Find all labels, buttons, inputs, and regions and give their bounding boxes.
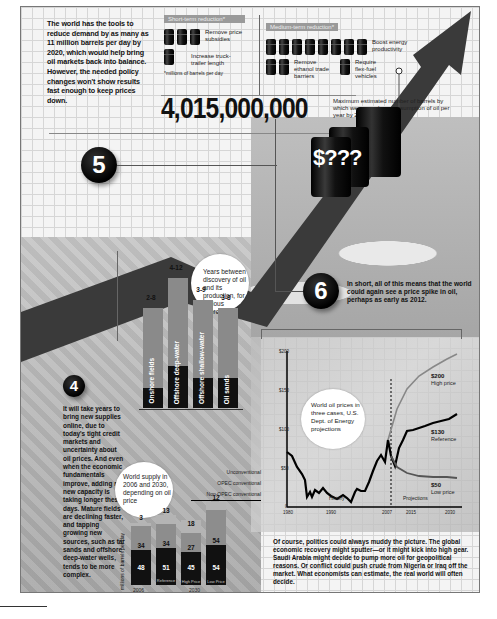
xtick: 1980 xyxy=(283,509,293,516)
value-label: 48 xyxy=(131,564,151,571)
ethanol-barriers-label: Remove ethanol trade barriers xyxy=(294,59,336,80)
low-price-label: Low price xyxy=(431,489,455,496)
value-label: 51 xyxy=(156,564,176,571)
value-label: 13 xyxy=(156,507,176,514)
xtick: 1990 xyxy=(326,509,336,516)
value-label: 34 xyxy=(156,540,176,547)
category-label: High Price xyxy=(181,579,201,584)
supply-ylabel: millions of barrels per day xyxy=(119,533,125,590)
high-price-value: $200 xyxy=(431,373,444,379)
remove-subsidies-label: Remove price subsidies xyxy=(205,29,245,43)
history-label: History xyxy=(329,495,345,502)
price-chart-title: World oil prices in three cases, U.S. De… xyxy=(301,389,365,449)
legend-unconventional: Unconventional xyxy=(191,467,261,478)
category-label: Offshore shallow-water xyxy=(198,332,205,404)
intro-text: The world has the tools to reduce demand… xyxy=(47,19,152,105)
medium-term-label: Medium-term reduction* xyxy=(266,23,338,31)
projections-label: Projections xyxy=(403,495,428,502)
ytick: $200 xyxy=(279,348,289,355)
group-label-2030: 2030 xyxy=(189,587,200,593)
flex-fuel-label: Require flex-fuel vehicles xyxy=(355,59,383,80)
marker-6: 6 xyxy=(303,273,339,309)
footnote: *millions of barrels per day xyxy=(164,70,245,77)
ytick: $100 xyxy=(279,426,289,433)
category-label: Reference xyxy=(156,578,176,583)
range-label: 4-12 xyxy=(166,264,186,271)
value-label: 54 xyxy=(206,537,226,544)
low-price-value: $50 xyxy=(431,482,441,488)
energy-productivity-label: Boost energy productivity xyxy=(372,39,414,53)
years-bar-chart: 2-8 4-12 3-9 3-8 Onshore fields Offshore… xyxy=(139,282,249,408)
section6-text: In short, all of this means that the wor… xyxy=(347,280,472,305)
footer-rule xyxy=(0,606,47,607)
category-label: Onshore fields xyxy=(148,358,155,404)
legend-non-opec: Non-OPEC conventional xyxy=(191,489,261,501)
xtick: 2015 xyxy=(406,509,416,516)
ytick: $150 xyxy=(279,387,289,394)
barrels-reduction-number: 4,015,000,000 xyxy=(161,91,308,125)
range-label: 3-9 xyxy=(191,286,211,293)
xtick: 2007 xyxy=(382,509,392,516)
range-label: 3-8 xyxy=(216,294,236,301)
category-label: Low Price xyxy=(206,579,226,584)
value-label: 12 xyxy=(206,494,226,501)
high-price-label: High price xyxy=(431,380,456,387)
closing-text: Of course, politics could always muddy t… xyxy=(273,538,473,586)
supply-bar-chart: 48 34 3 51 34 13 Reference 45 27 18 High… xyxy=(129,507,239,585)
value-label: 27 xyxy=(181,544,201,551)
ytick: $50 xyxy=(281,465,289,472)
category-label: Offshore deep-water xyxy=(173,341,180,404)
infographic: The world has the tools to reduce demand… xyxy=(20,6,480,593)
reference-value: $130 xyxy=(431,429,444,435)
value-label: 45 xyxy=(181,564,201,571)
supply-legend: Unconventional OPEC conventional Non-OPE… xyxy=(191,467,261,501)
group-label-2006: 2006 xyxy=(133,587,144,593)
short-term-panel: Short-term reduction* Remove price subsi… xyxy=(164,15,245,77)
marker-4: 4 xyxy=(63,375,85,397)
value-label: 3 xyxy=(131,514,151,521)
value-label: 18 xyxy=(181,520,201,527)
range-label: 2-8 xyxy=(141,294,161,301)
value-label: 54 xyxy=(206,564,226,571)
marker-5: 5 xyxy=(81,147,117,183)
price-tag: $??? xyxy=(313,145,362,171)
medium-term-panel: Medium-term reduction* Boost energy prod… xyxy=(266,15,414,80)
value-label: 34 xyxy=(131,542,151,549)
category-label: Oil sands xyxy=(223,375,230,404)
truck-trailer-label: Increase truck-trailer length xyxy=(191,53,241,67)
legend-opec: OPEC conventional xyxy=(191,478,261,489)
reference-label: Reference xyxy=(431,436,456,443)
xtick: 2030 xyxy=(445,509,455,516)
short-term-label: Short-term reduction* xyxy=(164,15,245,23)
